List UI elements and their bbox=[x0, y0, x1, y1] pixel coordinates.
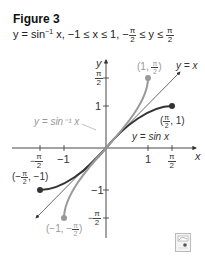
x-axis-label: x bbox=[195, 150, 201, 162]
arcsin-endpoint-bottom bbox=[61, 215, 67, 221]
y-axis-label: y bbox=[96, 57, 102, 69]
label-sin: y = sin x bbox=[132, 131, 169, 142]
sin-endpoint-left bbox=[37, 187, 43, 193]
xtick-neg-pi-over-2: −π2 bbox=[30, 153, 43, 170]
label-point-arcsin-bottom: (−1, −π2) bbox=[46, 222, 82, 237]
label-point-arcsin-top: (1, π2) bbox=[137, 60, 162, 75]
xtick-pi-over-2: π2 bbox=[168, 153, 176, 170]
ytick-neg-one: −1 bbox=[91, 184, 104, 196]
arcsin-endpoint-top bbox=[145, 75, 151, 81]
xtick-one: 1 bbox=[145, 153, 151, 165]
label-point-sin-bottom: (−π2, −1) bbox=[12, 170, 48, 185]
label-point-sin-top: (π2, 1) bbox=[160, 114, 185, 129]
xtick-neg-one: −1 bbox=[57, 153, 70, 165]
ytick-one: 1 bbox=[95, 100, 101, 112]
label-arcsin: y = sin⁻¹ x bbox=[34, 116, 79, 127]
sin-endpoint-right bbox=[169, 103, 175, 109]
graphing-calculator-icon[interactable] bbox=[175, 233, 191, 252]
arcsin-label-pointer bbox=[82, 124, 96, 130]
label-identity: y = x bbox=[176, 60, 197, 71]
ytick-pi-over-2: π2 bbox=[95, 70, 103, 87]
ytick-neg-pi-over-2: −π2 bbox=[88, 210, 101, 227]
